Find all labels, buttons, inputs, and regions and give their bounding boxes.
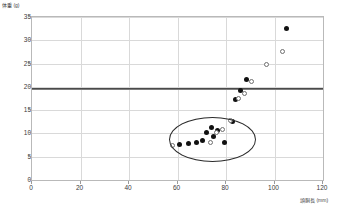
gridline-vertical xyxy=(275,17,276,180)
x-tick-label: 120 xyxy=(307,184,337,191)
x-tick-label: 80 xyxy=(210,184,240,191)
x-tick-label: 0 xyxy=(16,184,46,191)
x-tick-mark xyxy=(128,181,129,184)
x-tick-mark xyxy=(80,181,81,184)
x-axis: 020406080100120 xyxy=(31,184,324,198)
x-tick-mark xyxy=(225,181,226,184)
plot-area xyxy=(31,16,324,181)
data-point-open xyxy=(249,79,254,84)
gridline-vertical xyxy=(178,17,179,180)
x-tick-mark xyxy=(31,181,32,184)
y-axis: 05101520253035 xyxy=(0,16,31,181)
x-tick-label: 20 xyxy=(65,184,95,191)
gridline-vertical xyxy=(129,17,130,180)
data-point-open xyxy=(236,96,241,101)
data-point-filled xyxy=(284,26,289,31)
data-point-open xyxy=(264,62,269,67)
data-point-open xyxy=(280,49,285,54)
x-tick-mark xyxy=(322,181,323,184)
maturity-threshold-line xyxy=(32,88,323,89)
juvenile-cluster-ellipse xyxy=(169,117,256,162)
y-axis-title: 体重 (g) xyxy=(2,1,20,8)
x-tick-mark xyxy=(274,181,275,184)
scatter-chart-figure: 体重 (g) 頭胴長 (mm) 05101520253035 020406080… xyxy=(0,0,339,206)
x-tick-mark xyxy=(177,181,178,184)
x-tick-label: 40 xyxy=(113,184,143,191)
data-point-open xyxy=(242,91,247,96)
x-tick-label: 60 xyxy=(162,184,192,191)
x-tick-label: 100 xyxy=(259,184,289,191)
gridline-vertical xyxy=(81,17,82,180)
